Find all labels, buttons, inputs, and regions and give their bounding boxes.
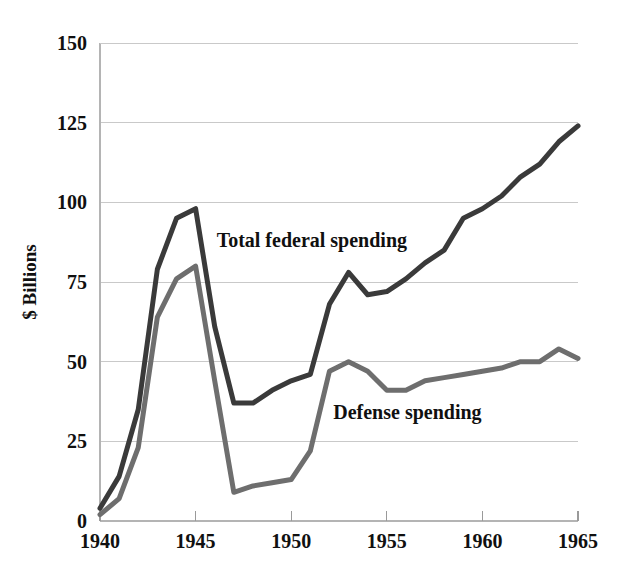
y-tick-label-75: 75 (67, 271, 87, 293)
y-axis-title: $ Billions (19, 244, 40, 320)
x-tick-labels: 194019451950195519601965 (80, 530, 598, 552)
series-line-1 (100, 266, 578, 515)
series-line-0 (100, 126, 578, 508)
y-tick-label-150: 150 (57, 32, 87, 54)
line-chart: 0255075100125150 19401945195019551960196… (0, 0, 624, 570)
x-tick-label-1940: 1940 (80, 530, 120, 552)
y-tick-label-100: 100 (57, 191, 87, 213)
x-tick-label-1945: 1945 (176, 530, 216, 552)
y-tick-label-25: 25 (67, 430, 87, 452)
x-tick-label-1955: 1955 (367, 530, 407, 552)
series-annotation-0: Total federal spending (217, 229, 407, 252)
tick-marks (100, 511, 578, 521)
x-tick-label-1950: 1950 (271, 530, 311, 552)
y-tick-labels: 0255075100125150 (57, 32, 87, 532)
y-tick-label-0: 0 (77, 510, 87, 532)
data-series (100, 126, 578, 515)
x-tick-label-1960: 1960 (462, 530, 502, 552)
chart-figure: 0255075100125150 19401945195019551960196… (0, 0, 624, 570)
series-annotation-1: Defense spending (333, 401, 481, 424)
x-tick-label-1965: 1965 (558, 530, 598, 552)
y-tick-label-50: 50 (67, 351, 87, 373)
series-annotations: Total federal spendingDefense spending (217, 229, 482, 424)
y-tick-label-125: 125 (57, 112, 87, 134)
